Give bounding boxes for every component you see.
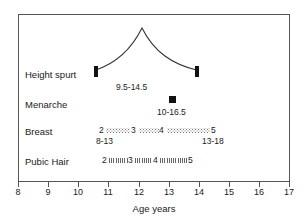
x-tick-label: 14 <box>189 187 209 198</box>
x-tick-label: 16 <box>249 187 269 198</box>
x-axis: 8 9 10 11 12 13 14 15 16 17 Age years <box>0 0 308 222</box>
puberty-sequence-chart: Height spurt Menarche Breast Pubic Hair … <box>0 0 308 222</box>
x-tick-label: 8 <box>8 187 28 198</box>
x-tick-label: 17 <box>279 187 299 198</box>
x-tick-label: 11 <box>98 187 118 198</box>
x-tick-label: 13 <box>159 187 179 198</box>
x-axis-title: Age years <box>0 203 308 214</box>
x-tick-label: 9 <box>38 187 58 198</box>
x-tick-label: 15 <box>219 187 239 198</box>
x-tick-label: 12 <box>129 187 149 198</box>
x-tick-label: 10 <box>68 187 88 198</box>
